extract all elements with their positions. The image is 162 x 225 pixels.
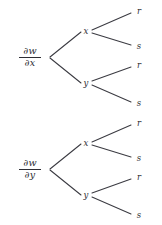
leaf-r-1-tree1: r	[137, 6, 142, 16]
edge-x-to-s-tree1	[92, 33, 131, 45]
chain-rule-diagram: x y r s r s x y r s	[0, 0, 162, 225]
edge-y-to-s-tree2	[92, 197, 131, 214]
tree-dw-dx-group: x y r s r s	[50, 6, 142, 109]
tree-svg-canvas: x y r s r s x y r s	[0, 0, 162, 225]
root-numerator-tree2: ∂w	[13, 158, 47, 168]
edge-root-to-x-tree1	[50, 32, 81, 57]
edge-y-to-r-tree2	[92, 179, 131, 193]
leaf-s-2-tree2: s	[137, 210, 142, 220]
root-label-dw-dy: ∂w ∂y	[13, 158, 47, 181]
root-numerator-tree1: ∂w	[13, 46, 47, 56]
edge-y-to-r-tree1	[92, 67, 131, 81]
root-denominator-tree1: ∂x	[13, 58, 47, 68]
edge-y-to-s-tree1	[92, 85, 131, 102]
node-y-tree1: y	[83, 78, 89, 88]
edge-x-to-s-tree2	[92, 145, 131, 157]
node-x-tree2: x	[84, 138, 89, 148]
edge-x-to-r-tree2	[92, 125, 131, 142]
leaf-s-1-tree1: s	[137, 41, 142, 51]
root-denominator-tree2: ∂y	[13, 170, 47, 180]
root-label-dw-dx: ∂w ∂x	[13, 46, 47, 69]
tree-dw-dy-group: x y r s r s	[50, 118, 142, 221]
leaf-s-1-tree2: s	[137, 153, 142, 163]
leaf-r-2-tree2: r	[137, 172, 142, 182]
edge-root-to-y-tree2	[50, 170, 81, 195]
edge-x-to-r-tree1	[92, 13, 131, 30]
leaf-r-2-tree1: r	[137, 60, 142, 70]
edge-root-to-y-tree1	[50, 58, 81, 83]
node-y-tree2: y	[83, 190, 89, 200]
leaf-s-2-tree1: s	[137, 98, 142, 108]
edge-root-to-x-tree2	[50, 144, 81, 169]
node-x-tree1: x	[84, 26, 89, 36]
leaf-r-1-tree2: r	[137, 118, 142, 128]
